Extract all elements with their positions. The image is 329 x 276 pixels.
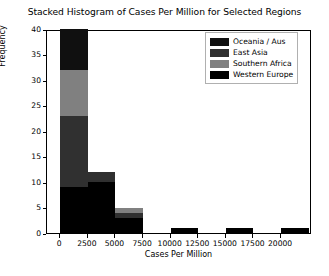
tick-mark: [114, 234, 115, 238]
tick-label: 0: [36, 229, 41, 238]
tick-label: 10: [31, 178, 41, 187]
tick-label: 30: [31, 76, 41, 85]
histogram-bar: [171, 228, 199, 233]
legend-label: Southern Africa: [233, 59, 292, 68]
chart-title: Stacked Histogram of Cases Per Million f…: [0, 6, 329, 17]
tick-label: 5000: [105, 239, 124, 248]
histogram-bar: [226, 228, 254, 233]
tick-label: 0: [57, 239, 62, 248]
tick-label: 25: [31, 101, 41, 110]
legend-color-swatch: [210, 38, 229, 46]
histogram-bar-segment: [60, 187, 88, 233]
y-axis-label: Frequency: [0, 0, 7, 96]
tick-label: 7500: [132, 239, 151, 248]
legend-item[interactable]: Western Europe: [210, 69, 293, 80]
tick-label: 12500: [185, 239, 209, 248]
tick-label: 35: [31, 50, 41, 59]
legend-label: East Asia: [233, 48, 268, 57]
histogram-bar-segment: [226, 228, 254, 233]
legend-color-swatch: [210, 60, 229, 68]
tick-label: 40: [31, 25, 41, 34]
tick-label: 5: [36, 203, 41, 212]
histogram-bar-segment: [88, 182, 116, 233]
histogram-bar: [281, 228, 309, 233]
histogram-bar: [115, 208, 143, 234]
tick-mark: [59, 234, 60, 238]
tick-label: 17500: [240, 239, 264, 248]
tick-mark: [252, 234, 253, 238]
legend-item[interactable]: Southern Africa: [210, 58, 293, 69]
tick-label: 10000: [158, 239, 182, 248]
tick-mark: [142, 234, 143, 238]
legend-label: Western Europe: [233, 70, 293, 79]
histogram-bar-segment: [115, 218, 143, 233]
tick-label: 15000: [213, 239, 237, 248]
histogram-bar: [60, 29, 88, 233]
histogram-bar: [88, 172, 116, 233]
legend-color-swatch: [210, 49, 229, 57]
tick-mark: [280, 234, 281, 238]
histogram-bar-segment: [60, 29, 88, 70]
tick-label: 20: [31, 127, 41, 136]
tick-mark: [87, 234, 88, 238]
x-axis-label: Cases Per Million: [46, 250, 311, 259]
tick-label: 2500: [77, 239, 96, 248]
tick-mark: [170, 234, 171, 238]
histogram-bar-segment: [171, 228, 199, 233]
chart-legend: Oceania / AusEast AsiaSouthern AfricaWes…: [205, 32, 298, 84]
legend-item[interactable]: Oceania / Aus: [210, 36, 293, 47]
histogram-bar-segment: [88, 172, 116, 182]
histogram-bar-segment: [60, 116, 88, 187]
histogram-bar-segment: [281, 228, 309, 233]
tick-mark: [225, 234, 226, 238]
histogram-bar-segment: [60, 70, 88, 116]
legend-color-swatch: [210, 71, 229, 79]
tick-label: 15: [31, 152, 41, 161]
chart-figure: Stacked Histogram of Cases Per Million f…: [0, 0, 329, 276]
tick-mark: [197, 234, 198, 238]
legend-label: Oceania / Aus: [233, 37, 285, 46]
tick-label: 20000: [268, 239, 292, 248]
legend-item[interactable]: East Asia: [210, 47, 293, 58]
